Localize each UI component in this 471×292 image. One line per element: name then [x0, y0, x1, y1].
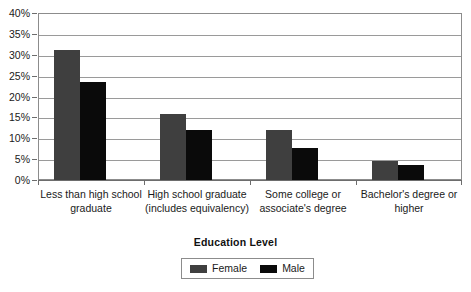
- x-axis-category-label: Less than high school graduate: [38, 188, 144, 215]
- legend-label-male: Male: [282, 263, 305, 274]
- bar-female: [160, 114, 186, 180]
- bar-chart: 0%5%10%15%20%25%30%35%40% Less than high…: [0, 0, 471, 292]
- bar-male: [80, 82, 106, 180]
- bar-male: [292, 148, 318, 180]
- x-axis-tick: [461, 180, 462, 185]
- bar-group: [38, 13, 144, 180]
- x-axis-ticks: [38, 180, 462, 186]
- y-axis-tick-mark: [32, 97, 37, 98]
- bar-group: [250, 13, 356, 180]
- y-axis-tick-label: 10%: [9, 133, 30, 143]
- x-axis-tick: [38, 180, 39, 185]
- y-axis-tick-mark: [32, 13, 37, 14]
- bar-male: [186, 130, 212, 180]
- y-axis: 0%5%10%15%20%25%30%35%40%: [0, 0, 36, 194]
- x-axis-labels: Less than high school graduateHigh schoo…: [38, 188, 462, 234]
- bar-female: [54, 50, 80, 180]
- y-axis-tick-label: 5%: [15, 154, 30, 164]
- bar-female: [372, 161, 398, 180]
- x-axis-title: Education Level: [0, 236, 471, 248]
- y-axis-tick-mark: [32, 180, 37, 181]
- legend-item-male: Male: [260, 263, 305, 274]
- legend-label-female: Female: [212, 263, 247, 274]
- legend-item-female: Female: [190, 263, 247, 274]
- y-axis-tick-mark: [32, 34, 37, 35]
- x-axis-category-label: Some college or associate's degree: [250, 188, 356, 215]
- legend-swatch-male-icon: [260, 265, 277, 273]
- y-axis-tick-mark: [32, 138, 37, 139]
- chart-legend: Female Male: [181, 258, 314, 279]
- y-axis-tick-label: 30%: [9, 50, 30, 60]
- bars-layer: [38, 13, 462, 180]
- y-axis-tick-label: 20%: [9, 92, 30, 102]
- y-axis-tick-label: 35%: [9, 29, 30, 39]
- bar-female: [266, 130, 292, 180]
- y-axis-tick-mark: [32, 159, 37, 160]
- x-axis-tick: [144, 180, 145, 185]
- legend-swatch-female-icon: [190, 265, 207, 273]
- x-axis-tick: [356, 180, 357, 185]
- y-axis-tick-mark: [32, 117, 37, 118]
- x-axis-category-label: Bachelor's degree or higher: [356, 188, 462, 215]
- x-axis-category-label: High school graduate (includes equivalen…: [144, 188, 250, 215]
- y-axis-tick-label: 25%: [9, 71, 30, 81]
- x-axis-tick: [250, 180, 251, 185]
- y-axis-tick-label: 15%: [9, 112, 30, 122]
- y-axis-tick-label: 0%: [15, 175, 30, 185]
- y-axis-tick-mark: [32, 55, 37, 56]
- bar-male: [398, 165, 424, 180]
- bar-group: [356, 13, 462, 180]
- y-axis-tick-label: 40%: [9, 8, 30, 18]
- bar-group: [144, 13, 250, 180]
- y-axis-tick-mark: [32, 76, 37, 77]
